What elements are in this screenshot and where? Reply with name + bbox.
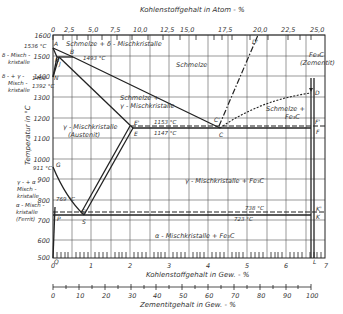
svg-text:7: 7: [324, 262, 329, 270]
svg-text:K': K': [316, 205, 322, 212]
svg-text:Schmelze +: Schmelze +: [120, 94, 159, 102]
svg-text:40: 40: [153, 292, 161, 300]
svg-text:20: 20: [102, 292, 110, 300]
svg-text:0: 0: [51, 292, 55, 300]
svg-text:α - Misch -: α - Misch -: [16, 202, 45, 208]
svg-text:100: 100: [306, 292, 318, 300]
svg-text:1300: 1300: [33, 94, 50, 102]
svg-text:1600: 1600: [34, 32, 51, 40]
svg-text:1147 °C: 1147 °C: [154, 130, 176, 136]
svg-text:12,5: 12,5: [160, 26, 174, 34]
svg-text:E': E': [134, 119, 140, 126]
y-tick-labels: 1600 1500 1400 1300 1200 1100 1000 900 8…: [33, 32, 51, 262]
svg-text:1500: 1500: [33, 53, 50, 61]
svg-text:A: A: [53, 40, 58, 47]
svg-text:0: 0: [51, 26, 55, 34]
svg-text:kristalle: kristalle: [16, 209, 38, 215]
svg-text:80: 80: [257, 292, 265, 300]
svg-text:50: 50: [179, 292, 187, 300]
svg-text:911 °C: 911 °C: [33, 165, 52, 171]
svg-text:7,5: 7,5: [110, 26, 120, 34]
svg-text:γ - Mischkristalle: γ - Mischkristalle: [63, 123, 118, 131]
svg-text:30: 30: [128, 292, 136, 300]
svg-text:D': D': [252, 38, 259, 45]
cementite-axis-title: Zementitgehalt in Gew. - %: [139, 301, 236, 309]
svg-text:4: 4: [206, 262, 210, 270]
svg-text:Fe₃C: Fe₃C: [285, 113, 300, 121]
svg-text:E: E: [134, 130, 138, 137]
svg-text:Q: Q: [54, 258, 59, 265]
svg-text:δ - Misch -: δ - Misch -: [2, 52, 30, 58]
svg-text:10,0: 10,0: [133, 26, 147, 34]
svg-text:Misch -: Misch -: [17, 186, 36, 192]
svg-text:1000: 1000: [33, 156, 50, 164]
svg-text:15,0: 15,0: [180, 26, 194, 34]
svg-text:22,5: 22,5: [281, 26, 295, 34]
svg-text:α - Mischkristalle + Fe₃C: α - Mischkristalle + Fe₃C: [155, 232, 235, 240]
svg-text:2,5: 2,5: [64, 26, 74, 34]
svg-text:(Austenit): (Austenit): [68, 131, 100, 139]
svg-text:K: K: [316, 213, 321, 220]
svg-text:6: 6: [284, 262, 288, 270]
svg-text:1493 °C: 1493 °C: [83, 55, 105, 61]
svg-text:(Ferrit): (Ferrit): [16, 216, 35, 222]
svg-text:1200: 1200: [33, 115, 50, 123]
acm-line: [84, 128, 133, 215]
svg-text:60: 60: [205, 292, 213, 300]
svg-text:γ - Mischkristalle + Fe₃C: γ - Mischkristalle + Fe₃C: [185, 177, 265, 185]
iron-carbon-phase-diagram: Kohlenstoffgehalt in Atom - % 0 2,5 5,0 …: [0, 0, 343, 314]
svg-text:F: F: [316, 128, 320, 135]
svg-text:25,0: 25,0: [310, 26, 324, 34]
svg-text:kristalle: kristalle: [8, 87, 30, 93]
bottom-axis-title: Kohlenstoffgehalt in Gew. - %: [146, 271, 250, 279]
svg-text:P: P: [57, 215, 61, 222]
svg-text:G: G: [56, 161, 61, 168]
svg-text:723 °C: 723 °C: [234, 216, 253, 222]
svg-text:600: 600: [38, 237, 50, 245]
svg-text:J: J: [58, 60, 61, 68]
svg-text:20,0: 20,0: [253, 26, 267, 34]
svg-text:1392 °C: 1392 °C: [32, 83, 54, 89]
svg-text:500: 500: [38, 254, 50, 262]
bottom-tick-labels: 0 1 2 3 4 5 6 7: [51, 262, 329, 270]
svg-text:kristalle: kristalle: [8, 59, 30, 65]
svg-text:kristalle: kristalle: [17, 193, 39, 199]
svg-text:D: D: [315, 89, 320, 96]
svg-text:738 °C: 738 °C: [245, 205, 264, 211]
svg-text:B: B: [70, 48, 74, 55]
graphite-liquidus: [219, 35, 258, 126]
svg-text:3: 3: [167, 262, 171, 270]
svg-text:Schmelze: Schmelze: [176, 61, 207, 69]
svg-text:γ - + α -: γ - + α -: [17, 179, 39, 186]
svg-text:Fe₃C: Fe₃C: [309, 51, 324, 59]
arrow-icon: [309, 88, 313, 92]
svg-text:5: 5: [245, 262, 249, 270]
liquidus-line: [53, 48, 220, 128]
y-axis-title: Temperatur in °C: [24, 105, 32, 165]
svg-text:700: 700: [38, 217, 50, 225]
svg-text:1100: 1100: [33, 135, 50, 143]
svg-text:(Zementit): (Zementit): [300, 59, 335, 67]
top-axis-title: Kohlenstoffgehalt in Atom - %: [140, 6, 245, 14]
svg-text:2: 2: [128, 262, 132, 270]
svg-text:γ - Mischkristalle: γ - Mischkristalle: [120, 102, 175, 110]
svg-text:17,5: 17,5: [218, 26, 232, 34]
svg-text:769 °C: 769 °C: [56, 196, 75, 202]
a3-line: [53, 167, 84, 215]
svg-text:L: L: [313, 258, 316, 265]
svg-text:Misch -: Misch -: [8, 80, 27, 86]
svg-text:N: N: [54, 74, 59, 81]
point-labels: A B H J N E' E C' C D D' F' F G S' S P K…: [53, 38, 322, 265]
svg-text:S: S: [82, 218, 86, 225]
svg-text:F': F': [315, 118, 320, 125]
cementite-scale: [53, 284, 311, 290]
svg-text:5,0: 5,0: [88, 26, 98, 34]
top-tick-labels: 0 2,5 5,0 7,5 10,0 12,5 15,0 17,5 20,0 2…: [51, 26, 324, 34]
svg-text:1153 °C: 1153 °C: [154, 119, 176, 125]
svg-text:C: C: [219, 131, 224, 138]
svg-text:S': S': [81, 208, 87, 215]
svg-text:1: 1: [89, 262, 93, 270]
svg-text:1536 °C: 1536 °C: [24, 43, 46, 49]
region-labels: Schmelze + δ - Mischkristalle Schmelze S…: [63, 40, 335, 240]
svg-text:δ - + γ -: δ - + γ -: [2, 73, 24, 80]
